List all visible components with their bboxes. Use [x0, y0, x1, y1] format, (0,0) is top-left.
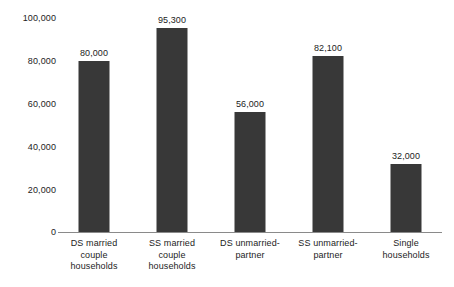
- x-tick-label-single-households: Single households: [367, 238, 445, 261]
- bar[interactable]: [313, 56, 344, 232]
- x-tick-label-line: SS married: [133, 238, 211, 250]
- x-tick-label-line: households: [367, 250, 445, 262]
- y-tick-label-80000: 80,000: [0, 56, 56, 66]
- x-tick-label-line: households: [55, 261, 133, 273]
- x-tick-label-ss-unmarried-partner: SS unmarried- partner: [289, 238, 367, 261]
- bars-layer: 80,000 95,300 56,000 82,100 32,000: [58, 0, 454, 233]
- bar-group-ds-unmarried-partner: 56,000: [214, 0, 286, 233]
- bar[interactable]: [79, 61, 110, 232]
- bar-group-ss-married-couple-households: 95,300: [136, 0, 208, 233]
- x-tick-label-line: DS unmarried-: [211, 238, 289, 250]
- x-tick-label-line: Single: [367, 238, 445, 250]
- plot-area: 80,000 95,300 56,000 82,100 32,000: [58, 0, 454, 287]
- bar[interactable]: [157, 28, 188, 232]
- x-tick-label-line: households: [133, 261, 211, 273]
- x-axis-category-labels: DS married couple households SS married …: [58, 238, 454, 286]
- y-tick-label-20000: 20,000: [0, 185, 56, 195]
- x-tick-label-line: partner: [289, 250, 367, 262]
- x-tick-label-ds-unmarried-partner: DS unmarried- partner: [211, 238, 289, 261]
- bar-group-ss-unmarried-partner: 82,100: [292, 0, 364, 233]
- bar-value-label: 82,100: [314, 43, 342, 53]
- y-tick-label-60000: 60,000: [0, 99, 56, 109]
- x-tick-label-line: couple: [55, 250, 133, 262]
- bar[interactable]: [391, 164, 422, 232]
- x-tick-label-line: partner: [211, 250, 289, 262]
- y-axis: 100,000 80,000 60,000 40,000 20,000 0: [0, 0, 56, 287]
- y-tick-label-40000: 40,000: [0, 142, 56, 152]
- x-tick-label-line: couple: [133, 250, 211, 262]
- bar-chart: 100,000 80,000 60,000 40,000 20,000 0 80…: [0, 0, 454, 287]
- bar-group-ds-married-couple-households: 80,000: [58, 0, 130, 233]
- bar-value-label: 32,000: [392, 151, 420, 161]
- y-tick-label-100000: 100,000: [0, 13, 56, 23]
- bar-group-single-households: 32,000: [370, 0, 442, 233]
- bar-value-label: 56,000: [236, 99, 264, 109]
- bar-value-label: 95,300: [158, 15, 186, 25]
- y-tick-label-0: 0: [0, 227, 56, 237]
- bar[interactable]: [235, 112, 266, 232]
- x-tick-label-line: DS married: [55, 238, 133, 250]
- x-tick-label-ss-married-couple-households: SS married couple households: [133, 238, 211, 273]
- x-tick-label-line: SS unmarried-: [289, 238, 367, 250]
- x-tick-label-ds-married-couple-households: DS married couple households: [55, 238, 133, 273]
- bar-value-label: 80,000: [80, 48, 108, 58]
